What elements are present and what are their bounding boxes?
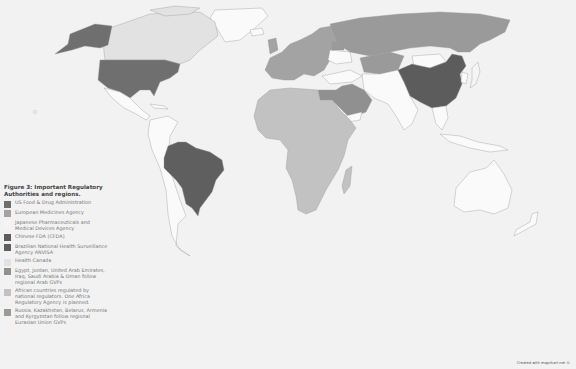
belarus[interactable]	[332, 42, 344, 50]
legend-item-us-fda: US Food & Drug Administration	[4, 200, 108, 208]
credit-text: Created with mapchart.net ©	[517, 361, 570, 365]
swatch-eurasian-gvp	[4, 309, 11, 316]
legend-label: Japanese Pharmaceuticals and Medical Dev…	[15, 220, 108, 232]
legend-title: Figure 3: Important Regulatory Authoriti…	[4, 184, 108, 197]
legend-item-eurasian-gvp: Russia, Kazakhstan, Belarus, Armenia and…	[4, 308, 108, 326]
hawaii	[34, 111, 37, 114]
swatch-africa	[4, 289, 11, 296]
legend-item-health-canada: Health Canada	[4, 258, 108, 266]
legend-item-ema: European Medicines Agency	[4, 210, 108, 218]
legend-label: Chinese FDA (CFDA)	[15, 234, 65, 240]
legend-label: Brazilian National Health Surveillance A…	[15, 244, 108, 256]
legend-item-africa: African countries regulated by national …	[4, 288, 108, 306]
swatch-arab-gvp	[4, 268, 11, 275]
legend-item-pmda: Japanese Pharmaceuticals and Medical Dev…	[4, 220, 108, 232]
legend-label: Health Canada	[15, 258, 51, 264]
swatch-health-canada	[4, 259, 11, 266]
ukraine[interactable]	[328, 50, 352, 64]
swatch-cfda	[4, 234, 11, 241]
legend-item-arab-gvp: Egypt, Jordan, United Arab Emirates, Ira…	[4, 268, 108, 286]
legend-label: African countries regulated by national …	[15, 288, 108, 306]
legend-label: European Medicines Agency	[15, 210, 84, 216]
swatch-ema	[4, 210, 11, 217]
swatch-pmda	[4, 220, 11, 227]
legend-item-anvisa: Brazilian National Health Surveillance A…	[4, 244, 108, 256]
legend-item-cfda: Chinese FDA (CFDA)	[4, 234, 108, 242]
swatch-us-fda	[4, 201, 11, 208]
legend: Figure 3: Important Regulatory Authoriti…	[4, 184, 108, 328]
legend-label: Russia, Kazakhstan, Belarus, Armenia and…	[15, 308, 108, 326]
legend-label: US Food & Drug Administration	[15, 200, 91, 206]
swatch-anvisa	[4, 244, 11, 251]
legend-label: Egypt, Jordan, United Arab Emirates, Ira…	[15, 268, 108, 286]
